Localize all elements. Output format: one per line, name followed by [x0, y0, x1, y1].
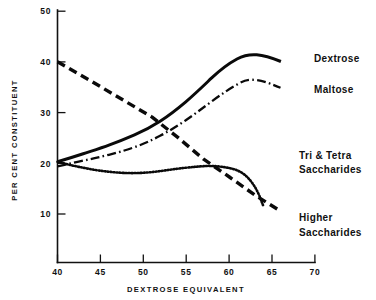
x-tick-label-45: 45 [95, 267, 106, 277]
x-tick-label-55: 55 [181, 267, 192, 277]
series-line-dextrose [58, 55, 281, 162]
axes-group [58, 10, 316, 263]
series-labels-group: Dextrose Maltose Tri & Tetra Saccharides… [299, 53, 362, 238]
chart-figure: 50 40 30 20 10 40 45 50 55 60 65 70 DEXT… [0, 0, 376, 300]
y-axis-tick-labels: 50 40 30 20 10 [40, 6, 51, 219]
series-line-maltose [58, 80, 281, 167]
y-tick-label-50: 50 [40, 6, 51, 16]
x-tick-label-70: 70 [310, 267, 321, 277]
y-axis-title: PER CENT CONSTITUENT [10, 79, 19, 201]
series-line-tri-tetra-saccharides [58, 162, 264, 206]
series-label-maltose: Maltose [314, 84, 354, 95]
x-axis-title: DEXTROSE EQUIVALENT [127, 285, 245, 294]
series-label-higher-line2: Saccharides [299, 227, 362, 238]
x-axis-tick-labels: 40 45 50 55 60 65 70 [52, 267, 320, 277]
series-group [58, 55, 281, 212]
x-tick-label-50: 50 [138, 267, 149, 277]
x-axis-ticks [58, 255, 315, 263]
series-label-tri-tetra-line1: Tri & Tetra [299, 150, 352, 161]
series-line-higher-saccharides [58, 62, 281, 212]
series-label-dextrose: Dextrose [314, 53, 360, 64]
y-tick-label-20: 20 [40, 159, 51, 169]
x-tick-label-40: 40 [52, 267, 63, 277]
y-axis-ticks [58, 11, 66, 214]
y-tick-label-10: 10 [40, 209, 51, 219]
line-chart-canvas: 50 40 30 20 10 40 45 50 55 60 65 70 DEXT… [0, 0, 376, 300]
x-tick-label-60: 60 [224, 267, 235, 277]
y-tick-label-40: 40 [40, 57, 51, 67]
series-label-tri-tetra-line2: Saccharides [299, 164, 362, 175]
series-label-higher-line1: Higher [299, 212, 333, 223]
y-tick-label-30: 30 [40, 108, 51, 118]
x-tick-label-65: 65 [267, 267, 278, 277]
